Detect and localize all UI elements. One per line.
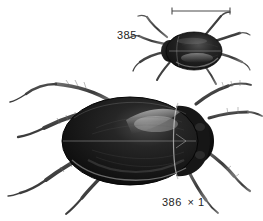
- figure-386-magnification: × 1: [187, 196, 204, 208]
- figure-386-number: 386: [162, 196, 182, 208]
- eye-right-386: [195, 151, 205, 159]
- figure-386-beetle: [8, 80, 262, 214]
- leg-fringe-right-386: [222, 80, 240, 178]
- highlight-core-386: [134, 116, 178, 132]
- figure-386-caption: 386 × 1: [162, 197, 205, 208]
- eye-left-386: [195, 123, 205, 131]
- figure-385-label: 385: [117, 30, 137, 41]
- scale-bar: [172, 8, 230, 15]
- illustration-plate: 385 386 × 1: [0, 0, 263, 221]
- figure-385-beetle: [129, 12, 250, 84]
